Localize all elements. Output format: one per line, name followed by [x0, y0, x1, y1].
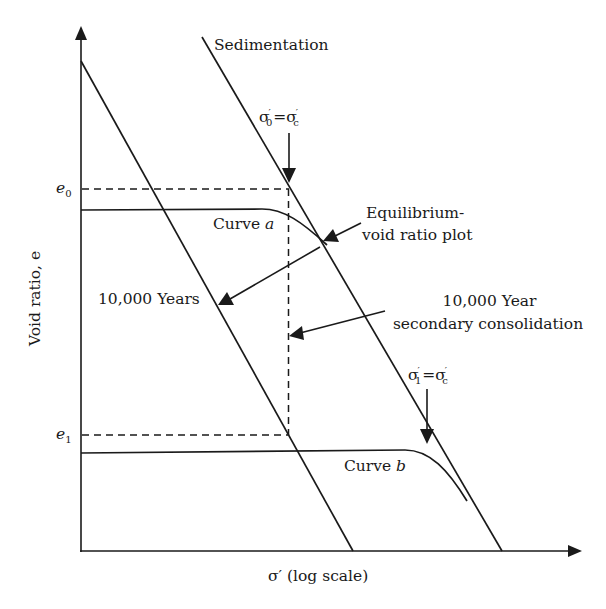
e0-label: e0: [56, 179, 72, 199]
e1-label: e1: [56, 425, 72, 445]
annotation-arrows: [230, 133, 427, 430]
y-axis-arrow-icon: [75, 26, 87, 40]
secondary-consolidation-label: 10,000 Year secondary consolidation: [393, 292, 583, 333]
curve-b: [81, 450, 467, 501]
sigma0-arrowhead-icon: [282, 168, 296, 183]
sedimentation-label: Sedimentation: [214, 36, 329, 54]
sigma0-label: σ′0=σ′c: [259, 107, 299, 128]
curve-a: [81, 209, 327, 245]
x-axis-arrow-icon: [568, 545, 582, 557]
ten-thousand-years-label: 10,000 Years: [98, 290, 200, 308]
secondary-arrowhead-icon: [289, 326, 304, 340]
consolidation-diagram: Sedimentation σ′0=σ′c σ′1=σ′c e0 e1 Curv…: [0, 0, 606, 609]
curve-a-label: Curve a: [213, 215, 274, 233]
equilibrium-arrow: [335, 223, 361, 236]
sigma1-arrowhead-icon: [420, 429, 434, 444]
years-arrow: [230, 247, 320, 299]
sigma1-label: σ′1=σ′c: [408, 365, 448, 386]
curve-b-label: Curve b: [344, 457, 406, 475]
equilibrium-label: Equilibrium- void ratio plot: [361, 204, 473, 244]
y-axis-label: Void ratio, e: [26, 251, 44, 347]
x-axis-label: σ′ (log scale): [268, 567, 368, 585]
